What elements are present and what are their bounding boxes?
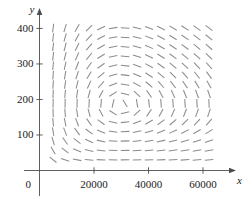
slope-segment	[86, 25, 92, 31]
slope-segment	[112, 99, 114, 107]
slope-segment	[73, 159, 81, 161]
slope-segment	[121, 65, 130, 66]
slope-segment	[183, 81, 188, 88]
slope-segment	[182, 119, 188, 125]
slope-segment	[183, 109, 186, 117]
slope-segment	[109, 37, 117, 39]
slope-segment	[171, 90, 175, 98]
slope-segment	[99, 90, 103, 98]
slope-segment	[88, 90, 90, 98]
slope-segment	[121, 84, 130, 85]
slope-segment	[134, 110, 140, 116]
slope-segment	[109, 27, 117, 28]
slope-segment	[133, 121, 141, 124]
slope-segment	[193, 150, 201, 151]
slope-segment	[207, 81, 211, 88]
slope-segment	[159, 90, 163, 98]
slope-segment	[145, 150, 154, 151]
slope-segment	[206, 35, 213, 40]
slope-segment	[169, 26, 176, 30]
slope-segment	[145, 73, 152, 78]
slope-segment	[64, 62, 66, 70]
slope-segment	[145, 130, 153, 132]
slope-segment	[145, 120, 152, 124]
slope-segment	[169, 150, 178, 151]
slope-segment	[53, 118, 54, 127]
slope-segment	[53, 24, 54, 33]
slope-segment	[158, 81, 164, 87]
slope-segment	[206, 72, 211, 79]
slope-segment	[193, 160, 202, 161]
slope-segment	[97, 54, 104, 59]
slope-segment	[63, 137, 68, 144]
slope-segment	[76, 71, 79, 79]
slope-segment	[85, 159, 94, 160]
slope-segment	[97, 26, 105, 30]
slope-segment	[194, 26, 201, 31]
slope-segment	[171, 109, 174, 117]
slope-segment	[183, 90, 186, 98]
slope-segment	[195, 81, 199, 88]
slope-segment	[145, 140, 153, 141]
slope-segment	[121, 56, 130, 57]
slope-segment	[87, 81, 91, 89]
slope-segment	[193, 130, 201, 134]
y-axis-arrowhead	[37, 8, 43, 15]
x-tick-label: 60000	[185, 179, 221, 190]
slope-segment	[169, 140, 177, 142]
slope-segment	[133, 141, 142, 142]
slope-segment	[182, 63, 188, 69]
slope-segment	[161, 99, 162, 108]
slope-segment	[53, 71, 54, 80]
slope-segment	[157, 45, 164, 49]
slope-segment	[75, 24, 79, 31]
slope-segment	[181, 140, 189, 142]
slope-segment	[133, 55, 141, 58]
slope-segment	[109, 65, 117, 67]
slope-segment	[136, 99, 137, 107]
slope-segment	[157, 35, 165, 39]
slope-segment	[169, 45, 176, 50]
slope-segment	[85, 139, 93, 142]
slope-segment	[123, 100, 127, 107]
slope-segment	[51, 147, 55, 154]
slope-segment	[169, 35, 176, 40]
slope-segment	[158, 63, 165, 68]
slope-segment	[206, 53, 212, 59]
slope-segment	[157, 140, 165, 142]
slope-segment	[74, 138, 81, 143]
slope-segment	[87, 119, 92, 126]
slope-segment	[169, 130, 177, 134]
slope-segment	[206, 119, 212, 126]
slope-segment	[65, 90, 66, 99]
slope-segment	[147, 90, 152, 97]
slope-segment	[205, 129, 212, 133]
slope-segment	[194, 44, 201, 49]
slope-segment	[146, 82, 153, 88]
x-tick-label: 20000	[76, 179, 112, 190]
slope-segment	[98, 72, 105, 78]
slope-segment	[76, 80, 78, 88]
slope-segment	[181, 26, 188, 31]
slope-segment	[75, 52, 79, 60]
slope-segment	[76, 118, 79, 126]
slope-segment	[173, 99, 174, 108]
slope-segment	[157, 26, 165, 30]
slope-segment	[64, 128, 67, 136]
y-tick-label: 400	[2, 23, 34, 34]
slope-segment	[185, 99, 186, 108]
slope-segment	[109, 46, 117, 48]
y-tick-label: 300	[2, 58, 34, 69]
slope-segment	[52, 137, 55, 145]
slope-segment	[158, 72, 165, 78]
slope-segment	[194, 53, 200, 59]
slope-segment	[75, 128, 80, 135]
slope-segment	[76, 90, 77, 99]
slope-segment	[73, 149, 81, 152]
slope-segment	[121, 93, 129, 95]
slope-segment	[109, 92, 116, 97]
slope-segment	[86, 34, 92, 40]
slope-segment	[86, 129, 93, 134]
slope-segment	[53, 61, 54, 70]
slope-segment	[121, 122, 130, 123]
